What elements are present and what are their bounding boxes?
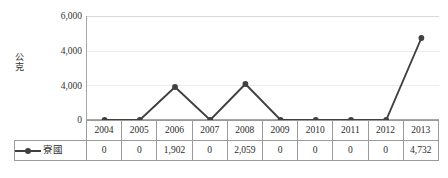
table-value-2012: 0	[368, 141, 403, 161]
table-row-values: 寮國 0 0 1,902 0 2,059 0 0 0 0 4,732	[15, 141, 439, 161]
table-header-2009: 2009	[262, 121, 297, 141]
table-header-2011: 2011	[333, 121, 368, 141]
series-name-label: 寮國	[43, 141, 63, 160]
table-header-2008: 2008	[227, 121, 262, 141]
table-value-2011: 0	[333, 141, 368, 161]
data-point-2013	[419, 35, 425, 41]
plot-svg	[87, 16, 439, 120]
table-value-2013: 4,732	[403, 141, 438, 161]
y-tick-label-6000: 6,000	[28, 11, 82, 21]
y-tick-label-4000: 4,000	[28, 46, 82, 56]
table-row-years: 2004 2005 2006 2007 2008 2009 2010 2011 …	[15, 121, 439, 141]
table-legend-cell: 寮國	[15, 141, 87, 161]
table-value-2004: 0	[87, 141, 122, 161]
y-tick-label-2000: 4,000	[28, 81, 82, 91]
gridlines	[87, 17, 439, 120]
series-line-laos	[105, 38, 422, 120]
table-header-2006: 2006	[157, 121, 192, 141]
line-chart: 公 克 6,000 4,000 4,000 0	[0, 0, 448, 178]
line-marker-icon	[15, 146, 41, 155]
table-value-2006: 1,902	[157, 141, 192, 161]
table-header-2012: 2012	[368, 121, 403, 141]
data-point-2008	[243, 81, 249, 87]
series-markers-laos	[102, 35, 425, 120]
table-header-2007: 2007	[192, 121, 227, 141]
table-value-2009: 0	[262, 141, 297, 161]
table-header-2010: 2010	[298, 121, 333, 141]
y-axis-title-char-1: 公	[11, 52, 27, 62]
table-header-2005: 2005	[122, 121, 157, 141]
table-value-2007: 0	[192, 141, 227, 161]
table-value-2010: 0	[298, 141, 333, 161]
table-legend-spacer	[15, 121, 87, 141]
table-value-2005: 0	[122, 141, 157, 161]
y-axis-title-char-2: 克	[11, 62, 27, 72]
data-point-2006	[172, 84, 178, 90]
plot-area	[86, 16, 438, 120]
table-value-2008: 2,059	[227, 141, 262, 161]
data-table: 2004 2005 2006 2007 2008 2009 2010 2011 …	[14, 120, 439, 161]
table-header-2013: 2013	[403, 121, 438, 141]
y-axis-title: 公 克	[11, 52, 27, 72]
table-header-2004: 2004	[87, 121, 122, 141]
